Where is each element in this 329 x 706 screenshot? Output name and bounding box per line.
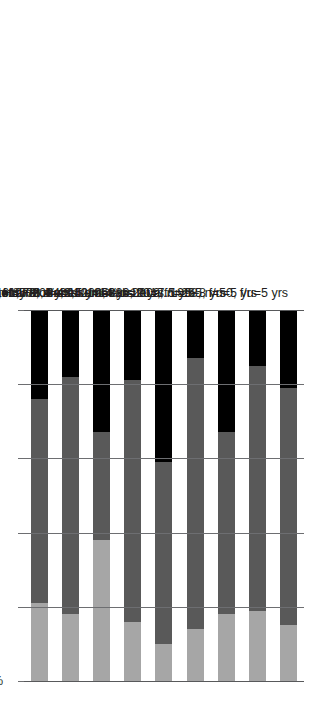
bar-8-segment-1 (62, 310, 79, 377)
bar-6-segment-1 (124, 310, 141, 380)
bar-3-segment-2 (218, 432, 235, 614)
gridline-100 (24, 681, 304, 682)
bar-6-segment-2 (124, 380, 141, 621)
bar-3-segment-3 (218, 614, 235, 681)
stacked-bar-chart: 0%20%40%60%80%100% DeLisi et al. 1998, n… (0, 0, 329, 706)
bar-2-segment-1 (249, 310, 266, 366)
bar-4 (187, 310, 204, 681)
bar-6 (124, 310, 141, 681)
bar-1-segment-1 (280, 310, 297, 388)
bar-5-segment-2 (156, 462, 173, 644)
tick-80 (18, 607, 24, 608)
tick-100 (18, 681, 24, 682)
bar-9 (31, 310, 48, 681)
bar-4-segment-1 (187, 310, 204, 358)
tick-label-80pct: 80% (0, 600, 10, 614)
tick-40 (18, 458, 24, 459)
bar-8-segment-2 (62, 377, 79, 614)
tick-label-40pct: 40% (0, 451, 10, 465)
bar-9-segment-3 (31, 603, 48, 681)
tick-label-100pct: 100% (0, 674, 10, 688)
tick-20 (18, 384, 24, 385)
bar-9-segment-2 (31, 399, 48, 603)
bar-2 (249, 310, 266, 681)
chart-stage: 0%20%40%60%80%100% DeLisi et al. 1998, n… (0, 0, 329, 706)
bar-8 (62, 310, 79, 681)
tick-0 (18, 310, 24, 311)
gridline-20 (24, 384, 304, 385)
gridline-40 (24, 458, 304, 459)
bar-5-segment-3 (156, 644, 173, 681)
gridline-80 (24, 607, 304, 608)
bar-5 (156, 310, 173, 681)
bar-1-segment-3 (280, 625, 297, 681)
bar-9-segment-1 (31, 310, 48, 399)
bar-group (24, 310, 304, 681)
bar-7-segment-1 (93, 310, 110, 432)
bar-1 (280, 310, 297, 681)
gridline-0 (24, 310, 304, 311)
bar-2-segment-2 (249, 366, 266, 611)
bar-6-segment-3 (124, 622, 141, 681)
category-labels: DeLisi et al. 1998, n=50, f/u=5 yrsBerte… (24, 0, 304, 298)
bar-4-segment-3 (187, 629, 204, 681)
gridline-60 (24, 533, 304, 534)
category-label-9: Average, n=1,778 (0, 287, 40, 301)
bar-7-segment-2 (93, 432, 110, 540)
tick-label-60pct: 60% (0, 526, 10, 540)
bar-3-segment-1 (218, 310, 235, 432)
bar-5-segment-1 (156, 310, 173, 462)
bar-3 (218, 310, 235, 681)
tick-label-20pct: 20% (0, 377, 10, 391)
tick-label-0pct: 0% (0, 303, 10, 317)
bar-7-segment-3 (93, 540, 110, 681)
tick-60 (18, 533, 24, 534)
bar-8-segment-3 (62, 614, 79, 681)
bar-7 (93, 310, 110, 681)
bar-4-segment-2 (187, 358, 204, 629)
bar-2-segment-3 (249, 611, 266, 681)
bar-1-segment-2 (280, 388, 297, 625)
plot-area (24, 310, 304, 681)
